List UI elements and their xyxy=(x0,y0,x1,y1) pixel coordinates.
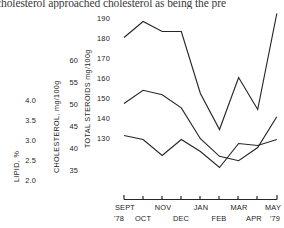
series-line-total-steroids xyxy=(124,14,277,130)
x-axis-line xyxy=(124,195,277,200)
xlabel-may: MAY xyxy=(261,203,284,212)
series-line-lipid xyxy=(124,136,277,168)
series-line-cholesterol xyxy=(124,90,277,160)
figure-page: cholesterol approached cholesterol as be… xyxy=(0,0,284,228)
xlabel-dec: DEC xyxy=(168,214,194,223)
xlabel-apr: APR xyxy=(241,214,267,223)
xlabel-year-79: '79 xyxy=(266,214,284,223)
xlabel-jan: JAN xyxy=(187,203,215,212)
chart-plot-area xyxy=(0,0,284,228)
xlabel-feb: FEB xyxy=(206,214,232,223)
xlabel-year-78: '78 xyxy=(108,214,130,223)
xlabel-oct: OCT xyxy=(130,214,156,223)
chart-figure: LIPID, % 4.0 3.5 3.0 2.5 2.0 CHOLESTEROL… xyxy=(0,0,284,228)
xlabel-sept: SEPT xyxy=(111,203,139,212)
xlabel-mar: MAR xyxy=(225,203,253,212)
xlabel-nov: NOV xyxy=(149,203,177,212)
